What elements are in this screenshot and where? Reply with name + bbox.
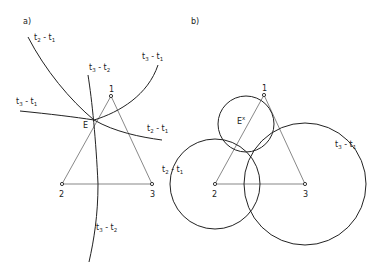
circle-station-1	[218, 96, 274, 152]
station-3-a-label: 3	[150, 190, 155, 199]
label-t2-t1-top: t2 - t1	[34, 33, 55, 43]
svg-text:t3 - t2: t3 - t2	[96, 223, 117, 233]
station-3-b-label: 3	[303, 190, 308, 199]
hyperbola-t3-t1-left	[20, 111, 94, 120]
estimate-e-a-label: E	[83, 121, 88, 130]
label-t3-t1-upper: t3 - t1	[142, 52, 163, 62]
station-3-a	[150, 182, 153, 185]
label-t3-t1-left: t3 - t1	[16, 97, 37, 107]
station-2-b-label: 2	[212, 190, 217, 199]
label-circle-t3-t1: t3 - t1	[335, 140, 356, 150]
svg-text:t2 - t1: t2 - t1	[34, 33, 55, 43]
panel-b: b) 1 2 3 Ex t2 - t1 t3 - t1	[162, 17, 366, 245]
label-t3-t2-lower: t3 - t2	[96, 223, 117, 233]
diagram-canvas: a) 1 2 3 E t2 - t1 t3 - t2 t3 - t1 t3 - …	[0, 0, 382, 273]
station-triangle-a	[62, 96, 152, 184]
svg-text:Ex: Ex	[237, 115, 246, 126]
label-t3-t2-top: t3 - t2	[89, 63, 110, 73]
hyperbola-t3-t1-upper	[94, 65, 158, 120]
hyperbola-t3-t2	[88, 75, 98, 262]
station-triangle-b	[215, 95, 305, 184]
panel-a-label: a)	[23, 17, 31, 26]
station-1-b-label: 1	[262, 84, 267, 93]
station-1-a	[109, 94, 112, 97]
station-1-a-label: 1	[109, 85, 114, 94]
station-2-a	[60, 182, 63, 185]
panel-a: a) 1 2 3 E t2 - t1 t3 - t2 t3 - t1 t3 - …	[16, 17, 168, 262]
station-3-b	[303, 182, 306, 185]
label-t2-t1-lower: t2 - t1	[147, 124, 168, 134]
station-2-a-label: 2	[59, 190, 64, 199]
svg-text:t3 - t1: t3 - t1	[16, 97, 37, 107]
svg-text:t3 - t1: t3 - t1	[142, 52, 163, 62]
svg-text:t2 - t1: t2 - t1	[147, 124, 168, 134]
label-circle-t2-t1: t2 - t1	[162, 165, 183, 175]
svg-text:t3 - t1: t3 - t1	[335, 140, 356, 150]
panel-b-label: b)	[191, 17, 199, 26]
estimate-e-b-label: Ex	[237, 115, 246, 126]
svg-text:t2 - t1: t2 - t1	[162, 165, 183, 175]
svg-text:t3 - t2: t3 - t2	[89, 63, 110, 73]
station-2-b	[213, 182, 216, 185]
station-1-b	[262, 93, 265, 96]
